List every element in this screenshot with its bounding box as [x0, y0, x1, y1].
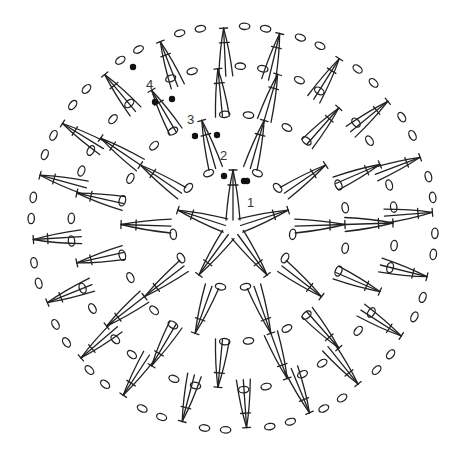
round-3-chain	[168, 374, 180, 384]
cluster-stroke	[123, 359, 155, 395]
cluster-stroke	[284, 165, 325, 193]
round-4-chain	[67, 99, 78, 111]
cluster-stroke	[145, 272, 189, 297]
slip-stitch	[169, 96, 175, 102]
round-1-cluster	[196, 230, 234, 277]
round-3-chain	[68, 213, 75, 224]
round-3-chain	[366, 306, 377, 318]
round-1-chain	[240, 282, 252, 290]
round-3-chain	[126, 349, 138, 360]
round-2-chain	[341, 202, 349, 213]
cluster-topbar	[214, 68, 222, 69]
slip-stitch	[244, 178, 250, 184]
round-2-chain	[301, 135, 313, 147]
round-2-cluster	[247, 284, 274, 335]
cluster-stroke	[302, 108, 339, 139]
round-3-cluster	[302, 105, 342, 148]
cluster-stroke	[288, 165, 325, 199]
clusters-layer	[33, 28, 433, 428]
round-1-cluster	[232, 230, 270, 277]
cluster-stroke	[101, 138, 137, 171]
round-3-chain	[350, 117, 362, 129]
round-3-chain	[86, 144, 97, 156]
round-3-chain	[257, 65, 268, 73]
round-2-chain	[243, 337, 254, 345]
cluster-stroke	[323, 351, 358, 384]
round-2-chain	[281, 323, 293, 334]
round-3-cluster	[214, 68, 229, 117]
cluster-stroke	[219, 28, 224, 76]
round-4-chain	[34, 277, 43, 289]
round-3-chain	[352, 325, 364, 337]
round-4-chain	[371, 364, 383, 376]
cluster-stroke	[244, 120, 265, 166]
round-3-chain	[390, 202, 398, 213]
cluster-stroke	[295, 219, 345, 224]
round-1-cluster	[238, 206, 289, 232]
cluster-topbar	[214, 387, 222, 388]
round-2-cluster	[244, 119, 269, 170]
round-1-chain	[215, 282, 227, 290]
round-3-cluster	[333, 266, 381, 295]
slip-stitch	[221, 173, 227, 179]
slip-stitch	[214, 132, 220, 138]
cluster-stroke	[63, 124, 104, 149]
round-2-chain	[281, 122, 293, 133]
round-3-chain	[385, 179, 394, 191]
round-3-cluster	[214, 339, 229, 388]
round-3-cluster	[258, 73, 282, 122]
round-4-cluster	[379, 258, 428, 280]
round-4-chain	[407, 129, 417, 141]
cluster-stroke	[232, 239, 267, 275]
cluster-stroke	[328, 347, 358, 385]
cluster-stroke	[345, 218, 393, 224]
cluster-stroke	[215, 69, 217, 118]
round-4-chain	[50, 318, 61, 330]
round-4-chain	[239, 23, 250, 30]
round-4-chain	[294, 33, 306, 43]
round-2-cluster	[191, 284, 218, 335]
cluster-stroke	[238, 235, 267, 275]
cluster-stroke	[107, 302, 149, 326]
cluster-stroke	[81, 327, 118, 358]
round-label-4: 4	[146, 77, 153, 92]
cluster-stroke	[105, 75, 141, 107]
crochet-chart: 1 2 3 4	[0, 0, 454, 465]
cluster-crossbar	[241, 413, 251, 414]
round-1-chain	[170, 229, 177, 240]
cluster-stroke	[278, 272, 322, 297]
round-3-chain	[364, 135, 375, 147]
round-1-chain	[272, 182, 284, 194]
cluster-stroke	[63, 124, 108, 143]
round-4-cluster	[120, 351, 155, 397]
cluster-stroke	[105, 75, 130, 116]
round-4-chain	[199, 424, 210, 432]
cluster-topbar	[276, 33, 284, 35]
chains-layer	[28, 23, 438, 433]
round-4-chain	[61, 336, 72, 348]
cluster-stroke	[339, 165, 380, 190]
round-4-cluster	[78, 321, 122, 361]
round-2-chain	[148, 304, 160, 316]
round-3-cluster	[76, 246, 125, 267]
cluster-stroke	[307, 108, 339, 144]
round-4-chain	[30, 257, 38, 268]
round-4-chain	[40, 149, 50, 161]
round-4-chain	[336, 392, 348, 403]
round-2-chain	[341, 243, 349, 254]
round-4-cluster	[219, 28, 233, 77]
round-4-chain	[396, 111, 407, 123]
round-3-chain	[390, 240, 397, 251]
cluster-stroke	[280, 165, 325, 187]
slip-stitch	[192, 133, 198, 139]
round-3-chain	[87, 302, 98, 314]
round-3-cluster	[333, 161, 381, 190]
slip-stitch	[130, 64, 136, 70]
round-4-chain	[83, 364, 95, 376]
round-3-chain	[235, 63, 246, 70]
round-4-chain	[264, 423, 275, 431]
cluster-stroke	[312, 108, 339, 149]
round-1-chain	[251, 168, 263, 178]
cluster-stroke	[233, 170, 240, 220]
round-2-cluster	[295, 219, 345, 233]
